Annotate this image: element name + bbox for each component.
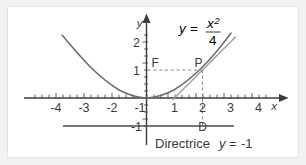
caption-equals: = (229, 136, 237, 151)
x-tick-label: -3 (78, 101, 89, 115)
y-axis-tick-labels: 2 1 -1 (131, 36, 142, 134)
equation-numerator-exponent: 2 (214, 16, 220, 26)
caption-prefix: Directrice (155, 136, 210, 151)
equation-denominator: 4 (209, 33, 217, 48)
x-tick-label: 1 (171, 101, 178, 115)
point-label-focus: F (152, 56, 159, 70)
curve-equation: y = x 2 4 (178, 16, 221, 49)
x-tick-label: 2 (199, 101, 206, 115)
directrix-caption: Directrice y = -1 (155, 136, 253, 151)
y-tick-label: -1 (131, 120, 142, 134)
point-label-p: P (194, 56, 202, 70)
x-tick-label: -4 (50, 101, 61, 115)
figure-root: -4 -3 -2 -1 1 2 3 4 2 1 -1 y x F P D (0, 0, 306, 165)
x-tick-label: -2 (106, 101, 117, 115)
caption-value: -1 (241, 136, 253, 151)
y-axis-label: y (136, 17, 144, 29)
parabola-plot: -4 -3 -2 -1 1 2 3 4 2 1 -1 y x F P D (8, 7, 298, 157)
equation-operator: = (190, 21, 198, 36)
y-tick-label: 2 (133, 36, 140, 50)
equation-lhs: y (178, 21, 187, 36)
x-tick-label: -1 (134, 101, 145, 115)
x-axis-label: x (270, 100, 278, 112)
tangent-line (173, 37, 236, 100)
x-axis-tick-labels: -4 -3 -2 -1 1 2 3 4 (50, 101, 262, 115)
figure-frame: -4 -3 -2 -1 1 2 3 4 2 1 -1 y x F P D (7, 6, 299, 158)
caption-variable: y (218, 136, 227, 151)
y-tick-label: 1 (133, 64, 140, 78)
x-tick-label: 4 (255, 101, 262, 115)
point-label-d: D (198, 120, 207, 134)
x-tick-label: 3 (227, 101, 234, 115)
